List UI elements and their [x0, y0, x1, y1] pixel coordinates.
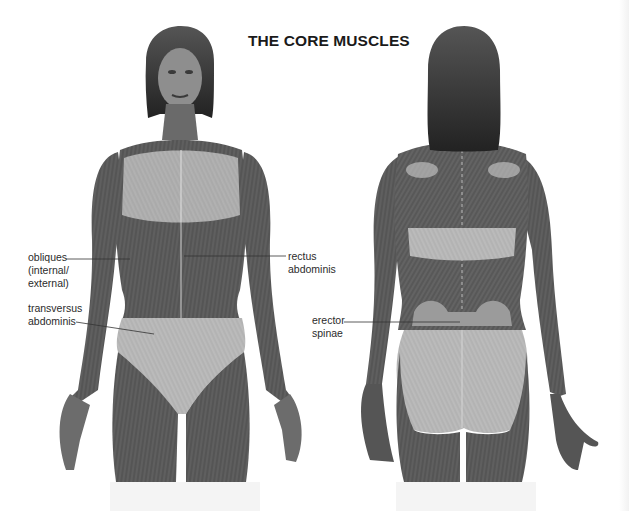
- label-obliques: obliques (internal/ external): [28, 251, 69, 290]
- label-rectus-abdominis: rectus abdominis: [288, 250, 336, 276]
- back-right-hand: [550, 394, 598, 470]
- label-transversus-abdominis: transversus abdominis: [28, 302, 82, 328]
- front-left-arm: [70, 152, 124, 402]
- back-bra-band: [408, 228, 516, 261]
- back-body: [361, 26, 598, 511]
- label-erector-spinae: erector spinae: [312, 314, 345, 340]
- front-face: [158, 48, 202, 108]
- front-body: [60, 26, 302, 511]
- back-hair: [428, 26, 501, 152]
- front-right-hand: [274, 394, 302, 462]
- back-left-hand: [361, 384, 394, 462]
- front-left-hand: [60, 394, 90, 470]
- front-right-arm: [238, 152, 292, 402]
- page-edge-shadow: [619, 0, 629, 511]
